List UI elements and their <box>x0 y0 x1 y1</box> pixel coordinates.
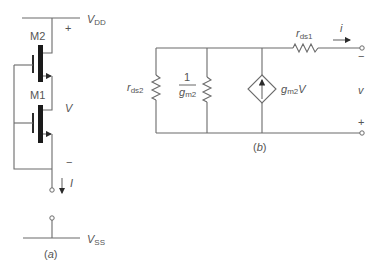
minus-sign-b: − <box>358 50 364 62</box>
vss-terminal <box>50 216 54 220</box>
panel-b-small-signal-model: rds2 1 gm2 gm2V rds1 i − v + (b) <box>127 22 365 153</box>
current-label-i-b: i <box>340 22 343 34</box>
transistor-m1 <box>14 105 52 188</box>
m2-label: M2 <box>30 30 45 42</box>
svg-text:gm2: gm2 <box>179 86 197 99</box>
inverse-gm2-resistor <box>203 77 211 102</box>
voltage-label-v: V <box>65 102 74 114</box>
vss-label: VSS <box>87 233 105 247</box>
rds2-resistor <box>152 75 160 100</box>
rds1-resistor <box>293 44 318 52</box>
output-terminal <box>50 188 54 192</box>
caption-a: (a) <box>44 248 57 260</box>
minus-sign: − <box>66 156 72 168</box>
panel-a-circuit: VDD + M2 M1 V − I V <box>14 13 106 260</box>
m1-label: M1 <box>30 89 45 101</box>
circuit-figure: VDD + M2 M1 V − I V <box>0 0 377 273</box>
caption-b: (b) <box>253 141 266 153</box>
inverse-gm2-label: 1 gm2 <box>179 71 197 99</box>
svg-text:1: 1 <box>184 71 190 83</box>
gm2v-label: gm2V <box>281 83 307 96</box>
terminal-bottom <box>360 131 364 135</box>
current-label-i: I <box>70 177 73 189</box>
vdd-label: VDD <box>87 13 106 27</box>
rds2-label: rds2 <box>127 81 144 95</box>
plus-sign-b: + <box>358 116 364 128</box>
rds1-label: rds1 <box>296 27 313 41</box>
voltage-label-v-b: v <box>358 84 365 96</box>
plus-sign-top: + <box>65 22 71 34</box>
